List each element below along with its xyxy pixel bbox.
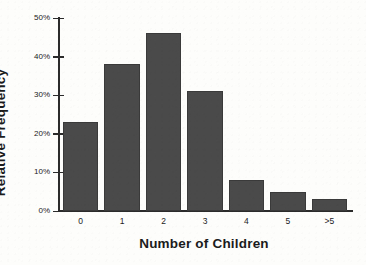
bar [63, 122, 98, 211]
bars-layer [60, 18, 351, 211]
x-tick-label: 4 [226, 216, 267, 226]
x-tick-label: 5 [267, 216, 308, 226]
bar [312, 199, 347, 211]
bar-chart-figure: Relative Frequency 0%10%20%30%40%50% 012… [0, 0, 366, 265]
y-tick-label: 0% [10, 206, 50, 215]
y-tick-label: 10% [10, 167, 50, 176]
bar [229, 180, 264, 211]
x-axis-title: Number of Children [58, 236, 350, 251]
y-tick-label: 30% [10, 90, 50, 99]
bar [187, 91, 222, 211]
y-tick-label: 50% [10, 13, 50, 22]
x-tick-label: 0 [60, 216, 101, 226]
x-tick-label: 1 [101, 216, 142, 226]
x-tick-label: >5 [309, 216, 350, 226]
bar [146, 33, 181, 211]
bar [270, 192, 305, 211]
y-tick-label: 40% [10, 52, 50, 61]
y-tick-label: 20% [10, 129, 50, 138]
x-tick-label: 2 [143, 216, 184, 226]
bar [104, 64, 139, 211]
x-tick-label: 3 [184, 216, 225, 226]
